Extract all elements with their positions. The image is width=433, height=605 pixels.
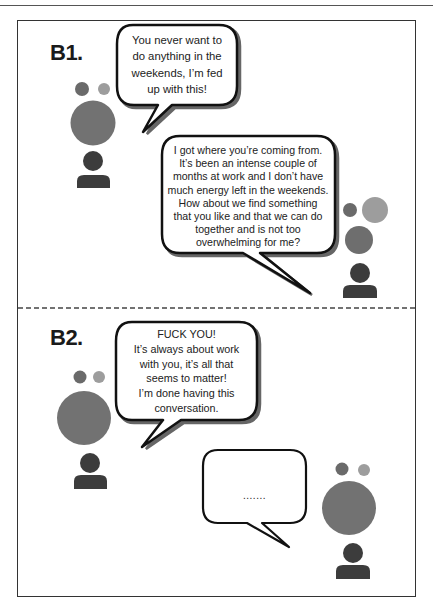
emotion-circle-big [57, 391, 111, 445]
person-body-icon [77, 175, 110, 188]
person-body-icon [343, 285, 377, 298]
emotion-circle-small-dark [74, 371, 87, 384]
person-head-icon [80, 453, 100, 473]
emotion-circle-big [345, 226, 373, 254]
emotion-circle-small-dark [336, 463, 349, 476]
emotion-circle-big [322, 481, 376, 535]
bubble-line: seems to matter! [116, 371, 257, 386]
emotion-circle-big [71, 101, 116, 146]
bubble-line: I’m done having this [116, 386, 257, 401]
bubble-line: together and is not too [160, 223, 336, 236]
bubble-text-b2-left: FUCK YOU! It’s always about work with yo… [116, 327, 257, 416]
bubble-text-b2-right: ....... [203, 490, 306, 502]
bubble-line: How about we find something [160, 197, 336, 210]
person-b2-right [322, 463, 376, 580]
bubble-text-b1-left: You never want to do anything in the wee… [117, 32, 237, 97]
person-b1-left [71, 82, 116, 188]
emotion-circle-small-light [362, 197, 388, 223]
bubble-line: that you like and that we can do [160, 210, 336, 223]
person-body-icon [74, 475, 107, 489]
bubble-line: FUCK YOU! [116, 327, 257, 342]
bubble-line: It’s always about work [116, 342, 257, 357]
bubble-line: much energy left in the weekends. [160, 184, 336, 197]
emotion-circle-small-dark [343, 203, 357, 217]
bubble-line: conversation. [116, 401, 257, 416]
person-head-icon [343, 543, 363, 563]
panel-label-b2: B2. [50, 325, 83, 351]
bubble-line: weekends, I’m fed [117, 65, 237, 81]
emotion-circle-small-dark [75, 82, 89, 96]
emotion-circle-small-light [358, 464, 370, 476]
bubble-line-ellipsis: ....... [203, 490, 306, 502]
panel-label-b1: B1. [50, 40, 83, 66]
person-head-icon [350, 263, 370, 283]
bubble-line: You never want to [117, 32, 237, 48]
person-b2-left [57, 371, 111, 490]
bubble-line: up with this! [117, 81, 237, 97]
bubble-line: I got where you’re coming from. [160, 144, 336, 157]
bubble-line: overwhelming for me? [160, 236, 336, 249]
person-b1-right [343, 197, 388, 298]
bubble-line: do anything in the [117, 48, 237, 64]
bubble-line: with you, it’s all that [116, 357, 257, 372]
person-head-icon [83, 151, 103, 171]
emotion-circle-small-light [93, 371, 105, 383]
person-body-icon [336, 565, 370, 579]
emotion-circle-small-light [98, 83, 110, 95]
bubble-line: It’s been an intense couple of [160, 157, 336, 170]
bubble-text-b1-right: I got where you’re coming from. It’s bee… [160, 144, 336, 250]
bubble-line: months at work and I don’t have [160, 170, 336, 183]
